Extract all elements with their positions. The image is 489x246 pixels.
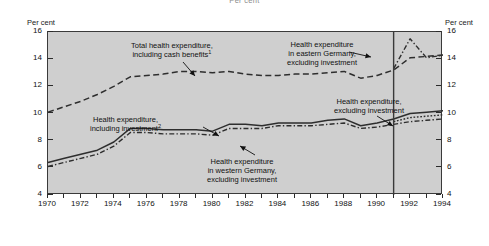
y-axis-tick-label: 6 [20,162,42,171]
x-axis-tick [343,194,344,198]
y-axis-tick [436,194,441,195]
y-axis-tick-label: 12 [20,80,42,89]
annotation-excl-line1: Health expenditure, [334,97,404,106]
x-axis-tick [179,194,180,198]
y-axis-tick-label: 14 [20,53,42,62]
x-axis-tick [327,194,328,198]
annotation-eastern-line1: Health expenditure [287,40,357,49]
y-axis-tick [436,85,441,86]
x-axis-tick-label: 1994 [427,199,457,208]
annotation-eastern-line2: in eastern Germany, [287,49,357,58]
annotation-total-line2: including cash benefits1 [131,50,213,59]
x-axis-tick [426,194,427,198]
figure-supertitle: Per cent [0,0,489,5]
x-axis-tick-label: 1986 [295,199,325,208]
annotation-excl-line2: excluding investment [334,106,404,115]
x-axis-tick [195,194,196,198]
y-axis-tick-label: 6 [447,162,469,171]
y-axis-tick [48,112,53,113]
x-axis-tick [129,194,130,198]
annotation-excluding-investment: Health expenditure, excluding investment [334,97,404,115]
x-axis-tick-label: 1972 [65,199,95,208]
x-axis-tick-label: 1980 [197,199,227,208]
footnote-marker-1: 1 [208,49,211,55]
x-axis-tick-label: 1988 [328,199,358,208]
x-axis-tick [80,194,81,198]
x-axis-tick [442,194,443,198]
y-axis-tick-label: 16 [447,26,469,35]
x-axis-tick-label: 1992 [394,199,424,208]
footnote-marker-2: 2 [158,123,161,129]
y-axis-tick-label: 12 [447,80,469,89]
y-axis-tick [48,58,53,59]
x-axis-tick [63,194,64,198]
x-axis-tick [360,194,361,198]
y-axis-tick [436,58,441,59]
y-axis-tick-label: 10 [447,108,469,117]
y-axis-tick [48,139,53,140]
figure: Per cent Per cent Per cent Total health … [0,0,489,246]
annotation-eastern-line3: excluding investment [287,58,357,67]
annotation-western-line1: Health expenditure [207,157,277,166]
x-axis-tick [393,194,394,198]
annotation-western-line2: in western Germany, [207,166,277,175]
x-axis-tick [113,194,114,198]
x-axis-tick [228,194,229,198]
x-axis-tick [376,194,377,198]
x-axis-tick [245,194,246,198]
annotation-incl-line2: including investment2 [90,124,161,133]
y-axis-tick [436,31,441,32]
y-axis-tick-label: 8 [447,135,469,144]
x-axis-tick-label: 1970 [32,199,62,208]
y-axis-tick-label: 8 [20,135,42,144]
x-axis-tick-label: 1978 [164,199,194,208]
series-line [394,39,443,69]
x-axis-tick [409,194,410,198]
x-axis-tick [261,194,262,198]
x-axis-tick [310,194,311,198]
y-axis-tick [436,112,441,113]
x-axis-tick [212,194,213,198]
y-axis-tick [48,194,53,195]
y-axis-tick [48,31,53,32]
x-axis-tick [47,194,48,198]
y-axis-tick [436,139,441,140]
y-axis-tick [48,166,53,167]
x-axis-tick [277,194,278,198]
x-axis-tick-label: 1974 [98,199,128,208]
y-axis-tick [436,166,441,167]
annotation-total-health-expenditure: Total health expenditure, including cash… [131,41,213,59]
annotation-including-investment: Health expenditure, including investment… [90,115,161,133]
annotation-total-line1: Total health expenditure, [131,41,213,50]
x-axis-tick [294,194,295,198]
x-axis-tick [146,194,147,198]
x-axis-tick-label: 1982 [230,199,260,208]
annotation-eastern-germany: Health expenditure in eastern Germany, e… [287,40,357,68]
x-axis-tick [162,194,163,198]
y-axis-tick-label: 16 [20,26,42,35]
y-axis-tick [48,85,53,86]
annotation-incl-line1: Health expenditure, [90,115,161,124]
y-axis-tick-label: 4 [20,189,42,198]
annotation-western-line3: excluding investment [207,175,277,184]
y-axis-tick-label: 14 [447,53,469,62]
x-axis-tick-label: 1984 [262,199,292,208]
annotation-western-germany: Health expenditure in western Germany, e… [207,157,277,185]
y-axis-tick-label: 10 [20,108,42,117]
x-axis-tick-label: 1990 [361,199,391,208]
y-axis-tick-label: 4 [447,189,469,198]
x-axis-tick-label: 1976 [131,199,161,208]
x-axis-tick [96,194,97,198]
